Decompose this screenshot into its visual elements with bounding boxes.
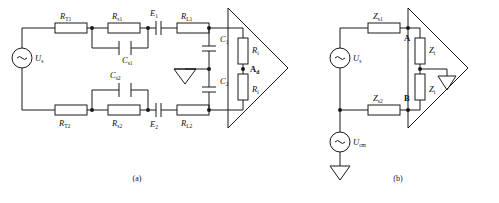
impedance-zs1: [368, 23, 400, 33]
top-branch-a: RT1 Rs1 Cs1 E1: [22, 8, 243, 66]
source-ucm-b: Ucm: [330, 110, 367, 180]
capacitor-c1-label: C1: [220, 34, 229, 45]
resistor-ri-top: [238, 38, 248, 64]
impedance-zi-bot: [415, 74, 425, 100]
capacitor-c2-label: C2: [220, 76, 229, 87]
resistor-rs1: [108, 23, 140, 33]
resistor-rl2-label: RL2: [180, 118, 193, 129]
resistor-rl1-label: RL1: [180, 11, 193, 22]
capacitor-e1-label: E1: [149, 8, 158, 19]
bottom-branch-a: RT2 Rs2 Cs2 E2: [22, 70, 243, 130]
circuit-b: Us Zs1 A Zs2 B: [330, 8, 468, 183]
resistor-ri-bot: [238, 74, 248, 100]
impedance-zs2-label: Zs2: [373, 93, 383, 104]
resistor-ri-bot-label: Ri: [251, 84, 259, 95]
resistor-rl1: [177, 23, 209, 33]
resistor-rl2: [177, 105, 209, 115]
resistor-rs1-label: Rs1: [111, 11, 122, 22]
impedance-zi-top: [415, 38, 425, 64]
resistor-rs2-label: Rs2: [111, 118, 122, 129]
source-us-a: Us: [12, 28, 43, 110]
capacitor-cs1-label: Cs1: [122, 55, 133, 66]
impedance-zs2: [368, 105, 400, 115]
caption-b: (b): [393, 174, 403, 183]
resistor-rt2-label: RT2: [58, 118, 71, 129]
impedance-zi-top-label: Zi: [429, 45, 436, 56]
input-impedance-a: Ri Ad Ri: [238, 28, 260, 110]
source-us-b-label: Us: [353, 53, 361, 64]
impedance-zi-bot-label: Zi: [429, 84, 436, 95]
resistor-rs2: [108, 105, 140, 115]
caption-a: (a): [133, 174, 142, 183]
node-ad-label: Ad: [250, 64, 260, 75]
source-us-label: Us: [35, 53, 43, 64]
shunt-caps-a: C1 C2: [174, 28, 229, 110]
capacitor-cs2-label: Cs2: [110, 70, 121, 81]
circuit-figure: Us RT1 Rs1: [0, 0, 499, 203]
impedance-zs1-label: Zs1: [373, 11, 383, 22]
node-b-label: B: [404, 93, 410, 103]
input-impedance-b: Zi Zi: [415, 28, 456, 110]
resistor-rt1-label: RT1: [59, 11, 72, 22]
circuit-a: Us RT1 Rs1: [12, 8, 288, 183]
capacitor-e2-label: E2: [149, 119, 158, 130]
resistor-ri-top-label: Ri: [251, 45, 259, 56]
resistor-rt1: [55, 23, 87, 33]
source-us-b: Us: [330, 28, 361, 110]
resistor-rt2: [55, 105, 87, 115]
source-ucm-label: Ucm: [353, 137, 367, 148]
